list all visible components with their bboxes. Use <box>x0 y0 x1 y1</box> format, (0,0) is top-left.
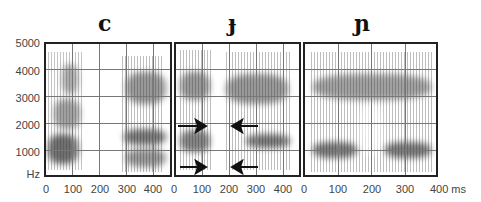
arrow-left-icon <box>232 120 258 132</box>
x-tick: 0 <box>301 183 307 195</box>
x-tick: 300 <box>118 183 136 195</box>
x-tick: 0 <box>43 183 49 195</box>
x-tick: 100 <box>329 183 347 195</box>
y-tick-5000: 5000 <box>0 37 40 49</box>
x-tick: 100 <box>193 183 211 195</box>
arrow-right-icon <box>178 120 206 132</box>
y-tick-1000: 1000 <box>0 146 40 158</box>
spectrogram-panel-j-bar <box>174 42 301 177</box>
y-tick-4000: 4000 <box>0 65 40 77</box>
y-tick-2000: 2000 <box>0 119 40 131</box>
x-tick: 200 <box>220 183 238 195</box>
arrow-annotations <box>176 44 301 177</box>
spectrogram-panel-palatal-nasal <box>303 42 438 177</box>
spectrogram-panel-c <box>44 42 172 177</box>
x-tick: 0 <box>171 183 177 195</box>
x-tick-with-unit: 400 ms <box>430 183 466 195</box>
x-tick: 300 <box>396 183 414 195</box>
panel-title-j-bar: ɟ <box>228 10 237 36</box>
x-tick: 400 <box>274 183 292 195</box>
x-tick: 300 <box>247 183 265 195</box>
y-tick-3000: 3000 <box>0 92 40 104</box>
panel-title-c: c <box>98 10 111 36</box>
x-tick: 100 <box>64 183 82 195</box>
x-tick: 400 <box>144 183 162 195</box>
panel-title-palatal-nasal: ɲ <box>354 10 370 36</box>
x-tick: 200 <box>363 183 381 195</box>
x-tick: 200 <box>91 183 109 195</box>
y-axis-unit: Hz <box>0 168 40 180</box>
arrow-left-icon <box>232 161 258 173</box>
arrow-right-icon <box>180 161 206 173</box>
